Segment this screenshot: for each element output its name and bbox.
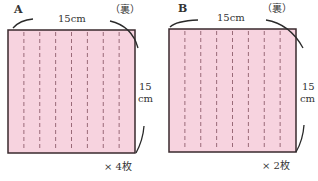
side-label-a: （裏） [110,3,140,15]
count-label-a: × 4枚 [104,160,132,172]
piece-label-b: B [178,2,187,15]
dimension-arc-top-left-b [170,20,198,27]
piece-b: B （裏） 15cm 15 cm × 2枚 [169,2,316,171]
piece-label-a: A [13,3,23,16]
height-label-unit-b: cm [300,93,316,104]
piece-a: A （裏） 15cm 15 cm × 4枚 [8,3,154,172]
side-label-b: （裏） [262,2,292,14]
width-label-b: 15cm [217,12,245,23]
height-label-num-a: 15 [139,81,152,92]
height-label-num-b: 15 [302,81,315,92]
dimension-arc-bottom-b [296,125,304,152]
height-label-unit-a: cm [138,93,154,104]
pattern-diagram: A （裏） 15cm 15 cm × 4枚 B （裏） 15cm 15 cm ×… [0,0,318,181]
dimension-arc-bottom-a [136,126,144,153]
count-label-b: × 2枚 [262,159,290,171]
dimension-arc-top-left-a [13,19,33,28]
width-label-a: 15cm [58,13,86,24]
